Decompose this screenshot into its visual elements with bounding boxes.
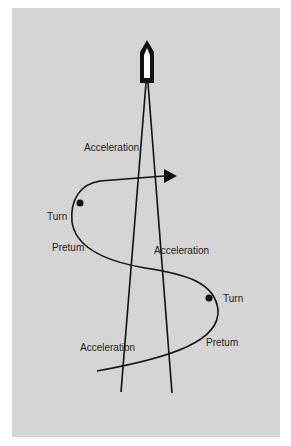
turn-point-dot: [77, 200, 84, 207]
label-turn-left: Turn: [47, 212, 67, 222]
label-turn-right: Turn: [223, 294, 243, 304]
course-line-right: [148, 83, 172, 393]
label-acceleration-top: Acceleration: [84, 143, 139, 153]
label-acceleration-bottom: Acceleration: [80, 343, 135, 353]
label-preturn-right: Pretum: [206, 338, 238, 348]
turn-point-dot: [206, 295, 213, 302]
arrowhead-icon: [164, 169, 177, 183]
label-acceleration-middle: Acceleration: [154, 246, 209, 256]
diagram-canvas: [0, 0, 291, 446]
label-preturn-left: Pretum: [52, 243, 84, 253]
boat-icon: [140, 40, 154, 83]
